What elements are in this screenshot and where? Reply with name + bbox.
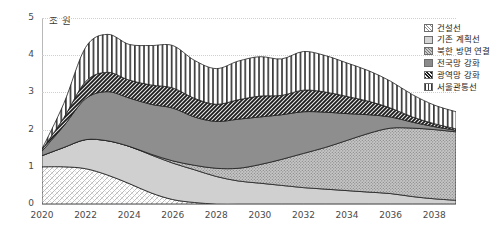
y-tick-label: 4: [12, 49, 34, 59]
legend-swatch-icon: [424, 71, 433, 79]
plot-area: [42, 18, 456, 204]
x-tick-label: 2020: [22, 210, 62, 220]
legend-item[interactable]: 북한 방면 연결: [424, 46, 503, 58]
legend-item[interactable]: 건설선: [424, 22, 503, 34]
stacked-area-svg: [42, 18, 456, 204]
legend-label: 북한 방면 연결: [437, 47, 490, 56]
legend-label: 광역망 강화: [437, 71, 480, 80]
legend-label: 서울관통선: [437, 83, 477, 92]
legend-label: 건설선: [437, 24, 461, 33]
chart-legend: 건설선기존 계획선북한 방면 연결전국망 강화광역망 강화서울관통선: [424, 22, 503, 93]
x-tick-label: 2028: [196, 210, 236, 220]
x-tick-label: 2030: [240, 210, 280, 220]
y-tick-label: 5: [12, 12, 34, 22]
legend-swatch-icon: [424, 36, 433, 44]
x-tick-label: 2034: [327, 210, 367, 220]
x-tick-label: 2036: [371, 210, 411, 220]
y-tick-label: 3: [12, 86, 34, 96]
legend-swatch-icon: [424, 24, 433, 32]
legend-label: 전국망 강화: [437, 59, 480, 68]
x-tick-label: 2038: [414, 210, 454, 220]
x-tick-label: 2026: [153, 210, 193, 220]
area-chart: 조 원 012345 20202022202420262028203020322…: [0, 0, 503, 240]
legend-swatch-icon: [424, 83, 433, 91]
x-tick-label: 2032: [283, 210, 323, 220]
x-tick-label: 2022: [66, 210, 106, 220]
legend-swatch-icon: [424, 59, 433, 67]
y-tick-label: 0: [12, 198, 34, 208]
x-axis-line: [42, 204, 456, 205]
legend-item[interactable]: 서울관통선: [424, 81, 503, 93]
legend-item[interactable]: 전국망 강화: [424, 57, 503, 69]
legend-label: 기존 계획선: [437, 35, 480, 44]
y-tick-label: 2: [12, 124, 34, 134]
legend-swatch-icon: [424, 47, 433, 55]
y-tick-label: 1: [12, 161, 34, 171]
x-tick-label: 2024: [109, 210, 149, 220]
legend-item[interactable]: 광역망 강화: [424, 69, 503, 81]
legend-item[interactable]: 기존 계획선: [424, 34, 503, 46]
